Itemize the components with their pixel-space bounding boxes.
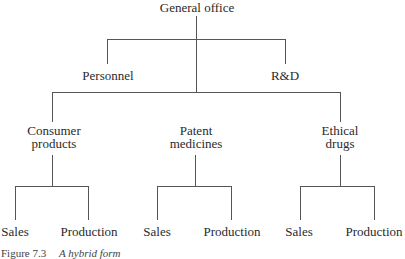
connector-ethical-production	[374, 186, 375, 220]
node-patent-production: Production	[203, 225, 260, 238]
connector-patent-horizontal	[157, 186, 232, 187]
node-label-line2: products	[27, 137, 80, 150]
connector-ethical-down	[340, 155, 341, 186]
connector-ethical-sales	[300, 186, 301, 220]
figure-caption: Figure 7.3 A hybrid form	[1, 247, 121, 259]
node-patent-sales: Sales	[143, 225, 170, 238]
connector-consumer-horizontal	[15, 186, 89, 187]
figure-title: A hybrid form	[59, 247, 121, 259]
node-general-office: General office	[160, 1, 234, 14]
node-consumer-sales: Sales	[1, 225, 28, 238]
node-patent-medicines: Patent medicines	[170, 124, 223, 150]
connector-trunk	[196, 16, 197, 93]
connector-patent-production	[231, 186, 232, 220]
connector-consumer-production	[88, 186, 89, 220]
node-rnd: R&D	[271, 69, 299, 82]
figure-number: Figure 7.3	[1, 247, 46, 259]
node-ethical-sales: Sales	[285, 225, 312, 238]
connector-rnd	[285, 39, 286, 64]
node-ethical-drugs: Ethical drugs	[322, 124, 359, 150]
connector-consumer-down	[52, 155, 53, 186]
node-ethical-production: Production	[345, 225, 402, 238]
node-label-line2: medicines	[170, 137, 223, 150]
connector-patent-sales	[157, 186, 158, 220]
connector-consumer-sales	[15, 186, 16, 220]
node-consumer-production: Production	[60, 225, 117, 238]
connector-ethical	[340, 92, 341, 122]
connector-personnel	[107, 39, 108, 64]
connector-patent-down	[195, 155, 196, 186]
node-label-line2: drugs	[322, 137, 359, 150]
node-personnel: Personnel	[82, 69, 133, 82]
connector-ethical-horizontal	[300, 186, 375, 187]
connector-consumer	[52, 92, 53, 122]
connector-divisions-horizontal	[52, 92, 341, 93]
connector-staff-horizontal	[107, 39, 286, 40]
node-consumer-products: Consumer products	[27, 124, 80, 150]
